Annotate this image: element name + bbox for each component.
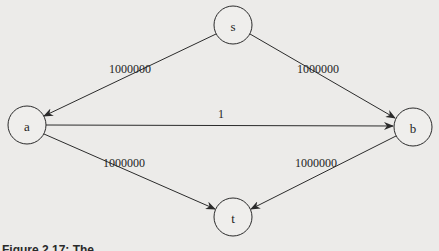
flow-network-diagram: 1000000 1000000 1 1000000 1000000 s a b … [0, 0, 439, 251]
edge-label-a-t: 1000000 [103, 156, 145, 170]
edge-a-b [46, 125, 393, 126]
node-label-t: t [231, 211, 235, 226]
edge-a-t [44, 134, 215, 209]
edge-b-t [251, 136, 396, 209]
node-s: s [214, 6, 252, 44]
node-t: t [214, 198, 252, 236]
node-a: a [8, 106, 46, 144]
node-b: b [394, 108, 432, 146]
edge-s-b [250, 34, 395, 118]
edge-label-s-b: 1000000 [297, 62, 339, 76]
node-label-b: b [410, 121, 417, 136]
node-label-a: a [24, 119, 30, 134]
figure-page: 1000000 1000000 1 1000000 1000000 s a b … [0, 0, 439, 251]
edge-label-a-b: 1 [218, 107, 224, 121]
figure-caption: Figure 2.17: The ... [2, 243, 107, 251]
node-label-s: s [230, 19, 235, 34]
edge-label-b-t: 1000000 [295, 156, 337, 170]
edge-label-s-a: 1000000 [109, 62, 151, 76]
